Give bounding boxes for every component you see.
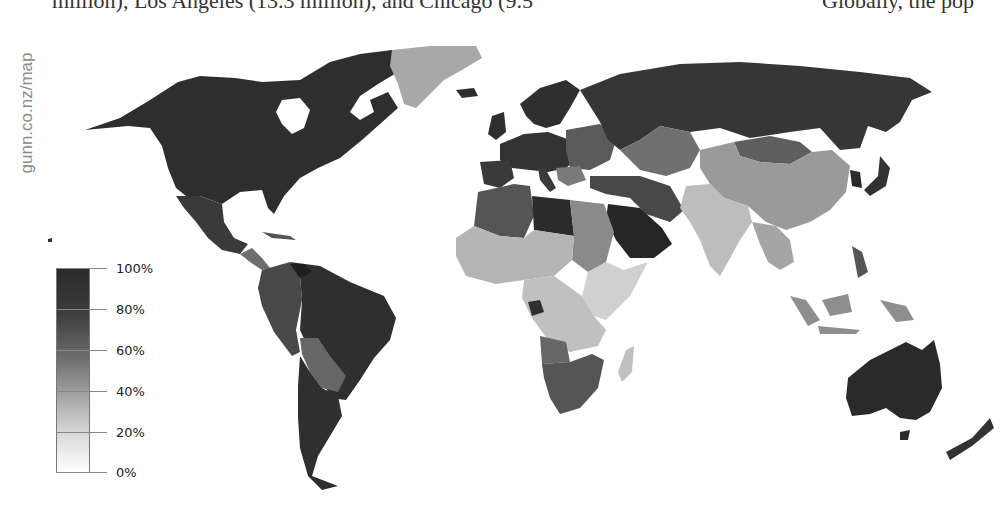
region-uk bbox=[488, 112, 506, 140]
region-scandinavia bbox=[520, 80, 580, 128]
region-indonesia bbox=[790, 294, 914, 334]
legend-label-100: 100% bbox=[116, 261, 153, 276]
region-iceland bbox=[456, 88, 478, 98]
legend-label-80: 80% bbox=[116, 302, 145, 317]
region-iberia bbox=[480, 160, 514, 188]
color-legend: 100% 80% 60% 40% 20% 0% bbox=[56, 268, 136, 478]
region-philippines bbox=[852, 246, 868, 278]
legend-tick-60 bbox=[56, 350, 107, 351]
region-east-africa bbox=[582, 262, 648, 320]
region-japan bbox=[864, 156, 890, 196]
legend-label-60: 60% bbox=[116, 343, 145, 358]
legend-tick-80 bbox=[56, 309, 107, 310]
region-russia bbox=[580, 62, 932, 150]
legend-label-0: 0% bbox=[116, 465, 137, 480]
region-greenland bbox=[390, 46, 482, 108]
region-australia bbox=[846, 340, 942, 420]
region-central-america bbox=[240, 248, 270, 270]
region-andean bbox=[258, 262, 302, 356]
region-tasmania bbox=[900, 430, 910, 440]
legend-label-40: 40% bbox=[116, 384, 145, 399]
region-libya bbox=[532, 196, 574, 236]
region-north-america bbox=[85, 50, 410, 214]
region-cuba bbox=[262, 232, 296, 240]
legend-gradient-bar bbox=[56, 268, 90, 473]
legend-tick-40 bbox=[56, 391, 107, 392]
world-map bbox=[0, 0, 1008, 508]
region-hawaii bbox=[48, 238, 52, 242]
legend-tick-0 bbox=[56, 472, 107, 473]
region-mexico bbox=[176, 196, 248, 254]
region-madagascar bbox=[618, 346, 634, 382]
legend-label-20: 20% bbox=[116, 425, 145, 440]
legend-tick-20 bbox=[56, 432, 107, 433]
region-new-zealand bbox=[946, 418, 994, 460]
region-korea bbox=[850, 170, 862, 188]
legend-tick-100 bbox=[56, 268, 107, 269]
